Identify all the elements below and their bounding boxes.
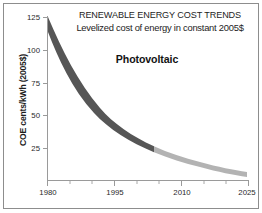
series-annotation-photovoltaic: Photovoltaic bbox=[95, 53, 199, 65]
chart-subtitle: Levelized cost of energy in constant 200… bbox=[64, 22, 256, 33]
y-tick-label-100: 100 bbox=[16, 46, 40, 55]
y-tick-label-25: 25 bbox=[16, 144, 40, 153]
y-tick-label-125: 125 bbox=[16, 13, 40, 22]
x-axis-minor-ticks bbox=[70, 181, 226, 184]
y-tick-label-75: 75 bbox=[16, 79, 40, 88]
x-tick-label-2010: 2010 bbox=[167, 188, 197, 197]
y-tick-label-50: 50 bbox=[16, 111, 40, 120]
x-tick-label-2025: 2025 bbox=[232, 188, 262, 197]
chart-figure: RENEWABLE ENERGY COST TRENDS Levelized c… bbox=[0, 0, 262, 213]
chart-title: RENEWABLE ENERGY COST TRENDS bbox=[64, 10, 256, 21]
x-tick-label-1995: 1995 bbox=[100, 188, 130, 197]
series-band-projection bbox=[48, 17, 247, 177]
chart-title-block: RENEWABLE ENERGY COST TRENDS Levelized c… bbox=[64, 10, 256, 34]
y-axis-ticks bbox=[43, 18, 47, 149]
x-tick-label-1980: 1980 bbox=[33, 188, 63, 197]
x-axis-major-ticks bbox=[48, 181, 249, 186]
series-band-historical bbox=[48, 17, 247, 177]
